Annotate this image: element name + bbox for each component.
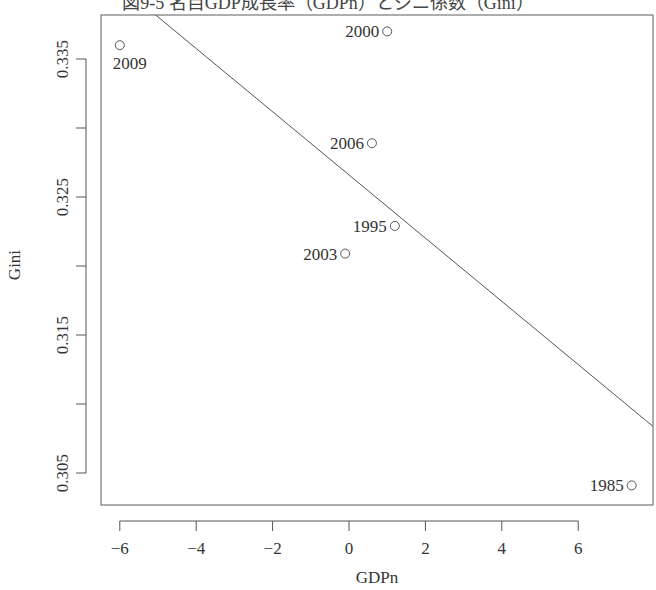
x-axis-label: GDPn — [356, 568, 399, 587]
x-tick-label: −2 — [264, 539, 282, 558]
regression-line — [105, 0, 655, 428]
y-tick-label: 0.315 — [53, 316, 72, 354]
x-tick-label: 0 — [345, 539, 354, 558]
svg-text:2009: 2009 — [113, 54, 147, 73]
y-tick-label: 0.335 — [53, 40, 72, 78]
data-point-2006: 2006 — [330, 134, 377, 153]
y-tick-label: 0.305 — [53, 454, 72, 492]
y-tick-label: 0.325 — [53, 178, 72, 216]
data-points: 200920002006199520031985 — [113, 22, 636, 495]
svg-text:1995: 1995 — [353, 217, 387, 236]
y-axis-label: Gini — [5, 250, 24, 281]
scatter-chart: −6−4−20246 0.3050.3150.3250.335 20092000… — [0, 0, 656, 590]
data-point-1995: 1995 — [353, 217, 400, 236]
plot-area — [101, 15, 653, 505]
data-point-2003: 2003 — [303, 245, 350, 264]
x-tick-label: −6 — [111, 539, 129, 558]
x-tick-label: −4 — [187, 539, 206, 558]
svg-text:2000: 2000 — [345, 22, 379, 41]
svg-text:2003: 2003 — [303, 245, 337, 264]
x-axis: −6−4−20246 — [111, 521, 583, 558]
x-tick-label: 2 — [421, 539, 430, 558]
x-tick-label: 6 — [574, 539, 583, 558]
data-point-2009: 2009 — [113, 41, 147, 73]
data-point-2000: 2000 — [345, 22, 392, 41]
data-point-1985: 1985 — [590, 476, 637, 495]
x-tick-label: 4 — [498, 539, 507, 558]
svg-text:1985: 1985 — [590, 476, 624, 495]
y-axis: 0.3050.3150.3250.335 — [53, 40, 86, 492]
svg-text:2006: 2006 — [330, 134, 364, 153]
